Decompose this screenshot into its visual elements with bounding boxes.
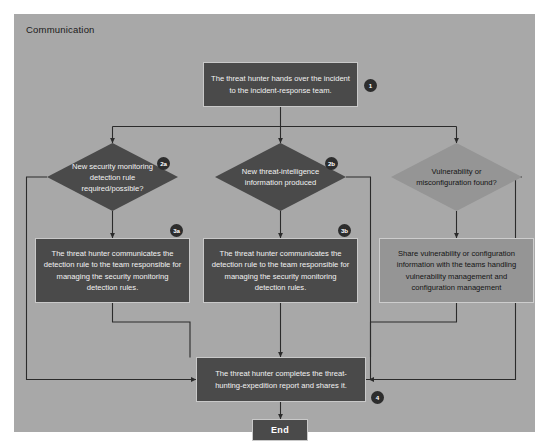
node-decision-threat-intel[interactable]: New threat-intelligence information prod… <box>215 143 346 211</box>
node-handover[interactable]: The threat hunter hands over the inciden… <box>203 62 358 107</box>
badge-decision-detection-rule: 2a <box>157 157 170 170</box>
badge-handover: 1 <box>364 79 377 92</box>
node-decision-detection-rule-label: New security monitoring detection rule r… <box>65 143 159 211</box>
flowchart-canvas: Communication <box>0 0 557 447</box>
node-share-vulnerability[interactable]: Share vulnerability or configuration inf… <box>379 238 534 303</box>
badge-complete-report: 4 <box>371 391 384 404</box>
node-decision-detection-rule[interactable]: New security monitoring detection rule r… <box>47 143 178 211</box>
badge-communicate-rule-a: 3a <box>170 224 183 237</box>
node-decision-vulnerability[interactable]: Vulnerability or misconfiguration found? <box>391 143 522 211</box>
lane-title: Communication <box>26 24 95 35</box>
node-decision-threat-intel-label: New threat-intelligence information prod… <box>233 143 327 211</box>
node-complete-report[interactable]: The threat hunter completes the threat-h… <box>196 357 366 402</box>
node-communicate-rule-a[interactable]: The threat hunter communicates the detec… <box>35 238 190 303</box>
node-end[interactable]: End <box>252 419 308 441</box>
badge-decision-threat-intel: 2b <box>325 157 338 170</box>
node-communicate-rule-b[interactable]: The threat hunter communicates the detec… <box>203 238 358 303</box>
node-decision-vulnerability-label: Vulnerability or misconfiguration found? <box>409 143 503 211</box>
badge-communicate-rule-b: 3b <box>338 224 351 237</box>
